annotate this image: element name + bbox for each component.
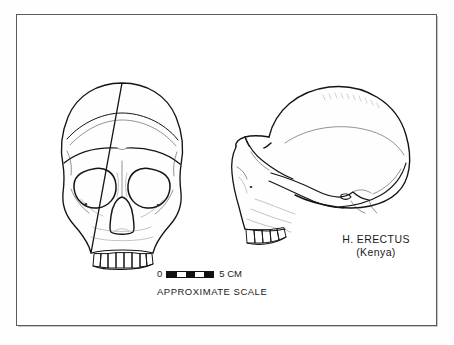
species-label-line2: (Kenya) (317, 246, 435, 259)
scale-segment (204, 272, 213, 277)
scale-segment (186, 272, 195, 277)
skull-lateral-drawing (225, 77, 425, 257)
illustration-plate: H. ERECTUS (Kenya) 0 5 CM APPROXIMATE SC… (0, 0, 454, 345)
species-label-line1: H. ERECTUS (317, 233, 435, 246)
scale-caption: APPROXIMATE SCALE (157, 286, 277, 297)
scale-segment (177, 272, 186, 277)
scale-segment (195, 272, 204, 277)
scale-bar-row: 0 5 CM (157, 267, 277, 281)
scale-bar-graphic (166, 271, 214, 278)
figure-skull-frontal (47, 77, 197, 272)
scale-min-label: 0 (157, 269, 162, 279)
scale-bar-group: 0 5 CM APPROXIMATE SCALE (157, 267, 277, 297)
figure-skull-lateral (225, 77, 425, 257)
skull-frontal-drawing (47, 77, 197, 272)
plate-border-frame: H. ERECTUS (Kenya) 0 5 CM APPROXIMATE SC… (16, 14, 437, 326)
species-label: H. ERECTUS (Kenya) (317, 233, 435, 259)
scale-segment (167, 272, 176, 277)
scale-max-label: 5 CM (219, 269, 242, 279)
